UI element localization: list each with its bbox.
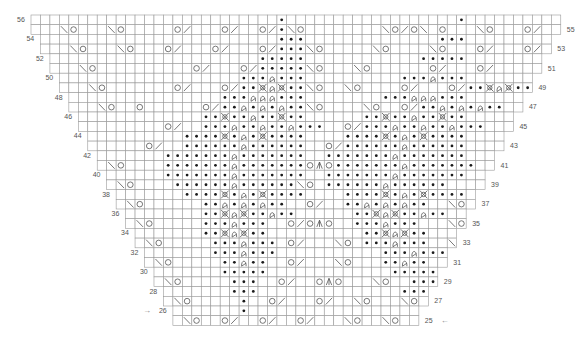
purl-dot-icon [271, 145, 274, 148]
purl-dot-icon [375, 135, 378, 138]
purl-dot-icon [242, 77, 245, 80]
chart-row-56 [31, 15, 561, 25]
purl-dot-icon [413, 203, 416, 206]
purl-dot-icon [271, 251, 274, 254]
purl-dot-icon [261, 164, 264, 167]
purl-dot-icon [432, 212, 435, 215]
row-label-32: 32 [131, 249, 139, 257]
purl-dot-icon [375, 203, 378, 206]
purl-dot-icon [205, 212, 208, 215]
purl-dot-icon [403, 115, 406, 118]
purl-dot-icon [271, 154, 274, 157]
purl-dot-icon [271, 242, 274, 245]
purl-dot-icon [224, 106, 227, 109]
purl-dot-icon [195, 135, 198, 138]
row-label-42: 42 [83, 152, 91, 160]
purl-dot-icon [280, 77, 283, 80]
purl-dot-icon [413, 135, 416, 138]
purl-dot-icon [394, 222, 397, 225]
purl-dot-icon [233, 193, 236, 196]
row-label-28: 28 [149, 288, 157, 296]
purl-dot-icon [451, 38, 454, 41]
purl-dot-icon [205, 125, 208, 128]
purl-dot-icon [432, 106, 435, 109]
purl-dot-icon [432, 174, 435, 177]
purl-dot-icon [280, 154, 283, 157]
purl-dot-icon [280, 125, 283, 128]
purl-dot-icon [441, 154, 444, 157]
purl-dot-icon [242, 271, 245, 274]
purl-dot-icon [271, 106, 274, 109]
purl-dot-icon [337, 164, 340, 167]
purl-dot-icon [441, 164, 444, 167]
purl-dot-icon [365, 193, 368, 196]
chart-row-49 [59, 83, 532, 93]
purl-dot-icon [252, 232, 255, 235]
purl-dot-icon [271, 125, 274, 128]
purl-dot-icon [195, 193, 198, 196]
row-label-41: 41 [501, 162, 509, 170]
purl-dot-icon [252, 251, 255, 254]
chart-row-43 [88, 141, 504, 151]
purl-dot-icon [413, 154, 416, 157]
purl-dot-icon [403, 290, 406, 293]
purl-dot-icon [214, 145, 217, 148]
purl-dot-icon [394, 193, 397, 196]
purl-dot-icon [252, 86, 255, 89]
purl-dot-icon [176, 164, 179, 167]
purl-dot-icon [214, 251, 217, 254]
purl-dot-icon [252, 222, 255, 225]
purl-dot-icon [252, 106, 255, 109]
purl-dot-icon [290, 67, 293, 70]
purl-dot-icon [394, 203, 397, 206]
row-label-38: 38 [102, 191, 110, 199]
purl-dot-icon [488, 106, 491, 109]
purl-dot-icon [526, 86, 529, 89]
chart-row-36 [126, 209, 467, 219]
purl-dot-icon [356, 212, 359, 215]
purl-dot-icon [252, 77, 255, 80]
purl-dot-icon [441, 135, 444, 138]
purl-dot-icon [290, 154, 293, 157]
purl-dot-icon [242, 154, 245, 157]
purl-dot-icon [347, 203, 350, 206]
chart-row-50 [59, 73, 532, 83]
purl-dot-icon [224, 222, 227, 225]
purl-dot-icon [365, 145, 368, 148]
purl-dot-icon [252, 135, 255, 138]
purl-dot-icon [403, 174, 406, 177]
chart-row-47 [69, 102, 523, 112]
purl-dot-icon [413, 193, 416, 196]
purl-dot-icon [422, 57, 425, 60]
purl-dot-icon [365, 232, 368, 235]
purl-dot-icon [365, 183, 368, 186]
purl-dot-icon [432, 193, 435, 196]
purl-dot-icon [356, 222, 359, 225]
purl-dot-icon [479, 125, 482, 128]
purl-dot-icon [290, 86, 293, 89]
purl-dot-icon [271, 174, 274, 177]
purl-dot-icon [261, 251, 264, 254]
purl-dot-icon [441, 125, 444, 128]
purl-dot-icon [224, 96, 227, 99]
purl-dot-icon [403, 212, 406, 215]
purl-dot-icon [261, 242, 264, 245]
chart-row-42 [97, 151, 494, 161]
purl-dot-icon [242, 96, 245, 99]
purl-dot-icon [252, 174, 255, 177]
purl-dot-icon [422, 280, 425, 283]
purl-dot-icon [309, 125, 312, 128]
purl-dot-icon [280, 212, 283, 215]
purl-dot-icon [413, 212, 416, 215]
purl-dot-icon [365, 212, 368, 215]
purl-dot-icon [252, 261, 255, 264]
purl-dot-icon [176, 183, 179, 186]
purl-dot-icon [422, 115, 425, 118]
purl-dot-icon [242, 280, 245, 283]
purl-dot-icon [299, 106, 302, 109]
purl-dot-icon [252, 193, 255, 196]
purl-dot-icon [460, 164, 463, 167]
purl-dot-icon [441, 183, 444, 186]
purl-dot-icon [375, 154, 378, 157]
purl-dot-icon [422, 164, 425, 167]
